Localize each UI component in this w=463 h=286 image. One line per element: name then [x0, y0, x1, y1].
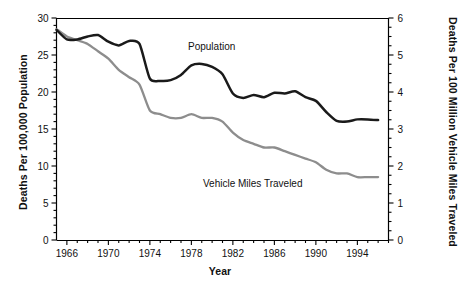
svg-text:1974: 1974: [139, 248, 162, 259]
svg-text:1970: 1970: [97, 248, 120, 259]
svg-text:10: 10: [37, 161, 49, 172]
svg-text:15: 15: [37, 124, 49, 135]
svg-text:6: 6: [398, 13, 404, 24]
y-axis-right-title: Deaths Per 100 Million Vehicle Miles Tra…: [447, 12, 459, 252]
left-axis-ticks: 051015202530: [37, 13, 56, 246]
series-annotation-vehicle-miles-traveled: Vehicle Miles Traveled: [203, 178, 303, 189]
svg-text:1: 1: [398, 198, 404, 209]
svg-text:1986: 1986: [263, 248, 286, 259]
svg-text:1982: 1982: [222, 248, 245, 259]
svg-text:4: 4: [398, 87, 404, 98]
svg-text:1978: 1978: [180, 248, 203, 259]
svg-text:2: 2: [398, 161, 404, 172]
svg-text:1990: 1990: [305, 248, 328, 259]
chart-figure: 051015202530 0123456 1966197019741978198…: [0, 0, 463, 286]
y-axis-left-title: Deaths Per 100,000 Population: [17, 32, 29, 232]
svg-text:20: 20: [37, 87, 49, 98]
right-axis-ticks: 0123456: [389, 13, 404, 246]
svg-text:1966: 1966: [56, 248, 79, 259]
svg-text:3: 3: [398, 124, 404, 135]
x-axis-title: Year: [0, 265, 440, 277]
svg-text:5: 5: [43, 198, 49, 209]
svg-text:0: 0: [398, 235, 404, 246]
svg-text:5: 5: [398, 50, 404, 61]
svg-text:30: 30: [37, 13, 49, 24]
series-annotation-population: Population: [188, 41, 235, 52]
svg-text:0: 0: [43, 235, 49, 246]
x-axis-ticks: 19661970197419781982198619901994: [56, 240, 389, 259]
svg-text:25: 25: [37, 50, 49, 61]
svg-text:1994: 1994: [346, 248, 369, 259]
